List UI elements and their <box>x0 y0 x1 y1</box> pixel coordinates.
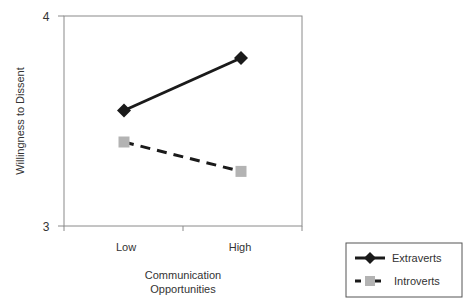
square-marker-icon <box>365 276 375 286</box>
y-tick-label: 3 <box>43 220 50 234</box>
diamond-marker-icon <box>117 104 131 118</box>
y-tick-label: 4 <box>43 10 50 24</box>
x-category-label: High <box>229 241 252 253</box>
x-axis-label-line1: Communication <box>145 269 221 281</box>
y-axis-label: Willingness to Dissent <box>14 67 26 175</box>
legend-label: Introverts <box>394 275 440 287</box>
legend-label: Extraverts <box>392 252 442 264</box>
x-axis-label-line2: Opportunities <box>150 283 216 295</box>
legend-item-introverts: Introverts <box>355 275 440 287</box>
diamond-marker-icon <box>234 51 248 65</box>
plot-area <box>64 16 302 226</box>
series-line-extraverts <box>124 58 241 111</box>
series-line-introverts <box>124 142 241 171</box>
square-marker-icon <box>119 137 130 148</box>
x-category-label: Low <box>116 241 136 253</box>
legend: Extraverts Introverts <box>346 243 462 297</box>
line-chart: 4 3 Willingness to Dissent Low High Comm… <box>0 0 467 306</box>
square-marker-icon <box>236 166 247 177</box>
series-layer <box>117 51 248 177</box>
